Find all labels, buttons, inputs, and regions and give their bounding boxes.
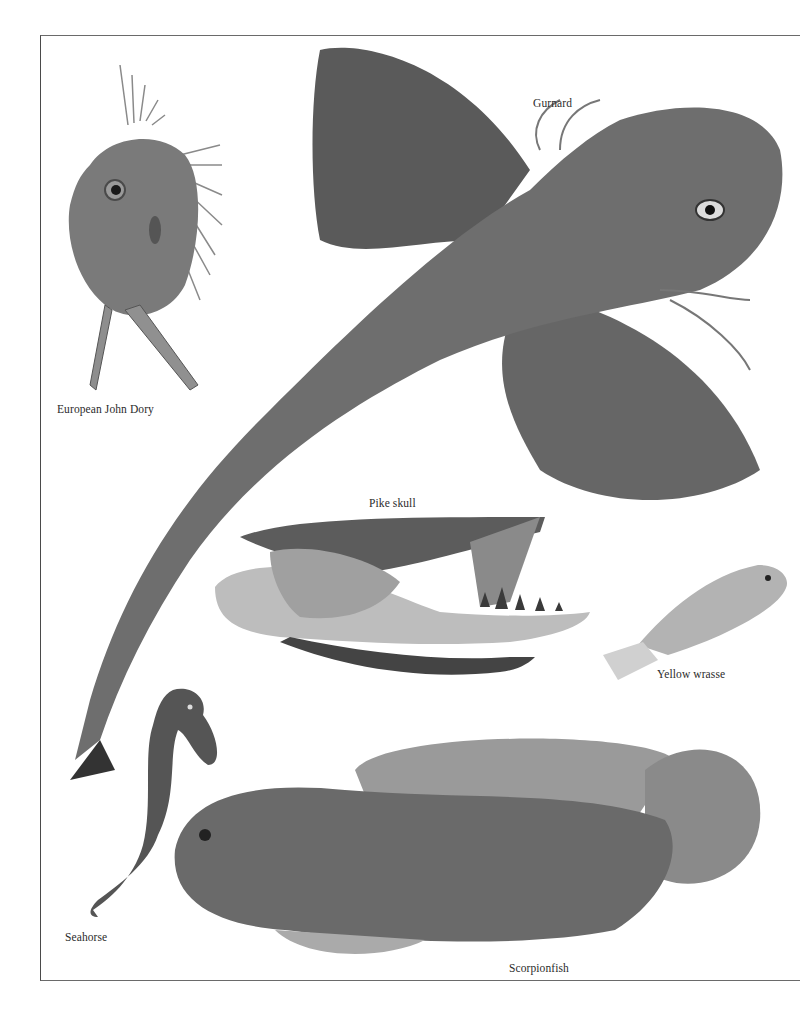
gurnard-label: Gurnard bbox=[533, 97, 572, 109]
scorpionfish-illustration bbox=[165, 730, 765, 960]
pike-skull-illustration bbox=[210, 512, 595, 697]
yellow-wrasse-label: Yellow wrasse bbox=[657, 668, 725, 680]
pike-skull-label: Pike skull bbox=[369, 497, 416, 509]
scorpionfish-label: Scorpionfish bbox=[509, 962, 569, 974]
seahorse-label: Seahorse bbox=[65, 931, 107, 943]
yellow-wrasse-illustration bbox=[598, 560, 793, 685]
